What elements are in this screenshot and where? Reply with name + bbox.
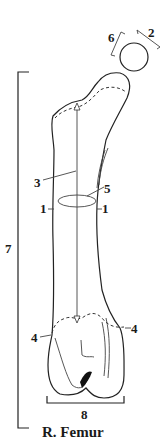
tick-4-left	[40, 335, 51, 337]
label-4-left: 4	[31, 330, 38, 345]
label-7: 7	[5, 241, 12, 256]
length-axis-arrow	[74, 103, 80, 323]
intercondylar-notch	[80, 371, 92, 388]
femur-diagram: 6 2 7 5 3 1 1 4 4 8	[0, 0, 163, 445]
label-8: 8	[81, 407, 88, 422]
leader-5	[87, 187, 104, 196]
label-5: 5	[104, 181, 111, 196]
label-3: 3	[34, 175, 41, 190]
label-2: 2	[148, 25, 155, 40]
label-6: 6	[108, 30, 115, 45]
bracket-7	[18, 72, 29, 428]
leader-3	[43, 171, 76, 180]
label-4-right: 4	[131, 321, 138, 336]
distal-dashed-line	[52, 314, 124, 334]
label-1-right: 1	[102, 201, 109, 216]
label-1-left: 1	[40, 201, 47, 216]
femur-outline	[48, 73, 130, 398]
diagram-title: R. Femur	[42, 424, 104, 440]
